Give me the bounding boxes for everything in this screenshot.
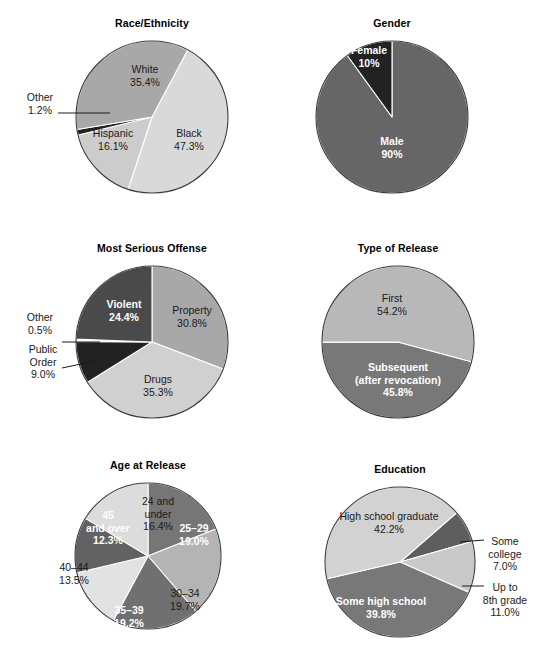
slice-group bbox=[76, 41, 228, 193]
label-line: Some bbox=[491, 535, 519, 547]
pie-slice-violent[interactable] bbox=[76, 266, 152, 342]
slice-group bbox=[76, 266, 228, 418]
label-line: 11.0% bbox=[491, 606, 520, 618]
label-line: 0.5% bbox=[28, 324, 52, 336]
label-line: 7.0% bbox=[493, 560, 517, 572]
slice-group bbox=[316, 41, 468, 193]
pie-chart-panel: Black47.3%Hispanic16.1%Other1.2%White35.… bbox=[0, 0, 544, 660]
label-line: 1.2% bbox=[28, 104, 52, 116]
label-line: Order bbox=[30, 356, 57, 368]
slice-group bbox=[322, 266, 474, 418]
chart-title-education: Education bbox=[250, 463, 544, 475]
label-line: 8th grade bbox=[483, 594, 528, 606]
chart-title-gender: Gender bbox=[242, 17, 542, 29]
slice-label-public-order: PublicOrder9.0% bbox=[29, 343, 58, 380]
slice-label-up-to-8th-grade: Up to8th grade11.0% bbox=[483, 581, 528, 618]
label-line: Other bbox=[27, 311, 54, 323]
slice-label-other: Other0.5% bbox=[27, 311, 54, 336]
chart-title-most-serious-offense: Most Serious Offense bbox=[2, 242, 302, 254]
label-line: Up to bbox=[492, 581, 517, 593]
chart-title-age-at-release: Age at Release bbox=[0, 459, 298, 471]
chart-title-type-of-release: Type of Release bbox=[248, 242, 544, 254]
label-line: college bbox=[488, 548, 521, 560]
label-line: Other bbox=[27, 91, 54, 103]
slice-group bbox=[325, 487, 475, 637]
slice-group bbox=[75, 483, 221, 629]
label-line: Public bbox=[29, 343, 58, 355]
slice-label-other: Other1.2% bbox=[27, 91, 54, 116]
slice-label-some-college: Somecollege7.0% bbox=[488, 535, 521, 572]
chart-title-race-ethnicity: Race/Ethnicity bbox=[2, 17, 302, 29]
label-line: 9.0% bbox=[31, 368, 55, 380]
